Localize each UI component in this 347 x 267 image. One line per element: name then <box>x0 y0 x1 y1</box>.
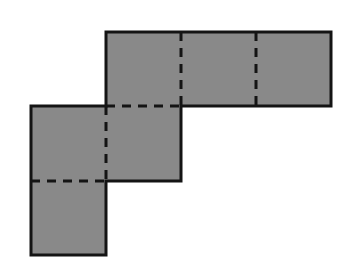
panel-middle-mid-square <box>106 106 181 181</box>
panel-middle-left-square <box>31 106 106 181</box>
net-diagram <box>0 0 347 267</box>
panel-top-middle-square <box>181 32 256 106</box>
panel-top-left-square <box>106 32 181 106</box>
panel-bottom-left-square <box>31 181 106 255</box>
figure-canvas <box>0 0 347 267</box>
panel-top-right-square <box>256 32 331 106</box>
